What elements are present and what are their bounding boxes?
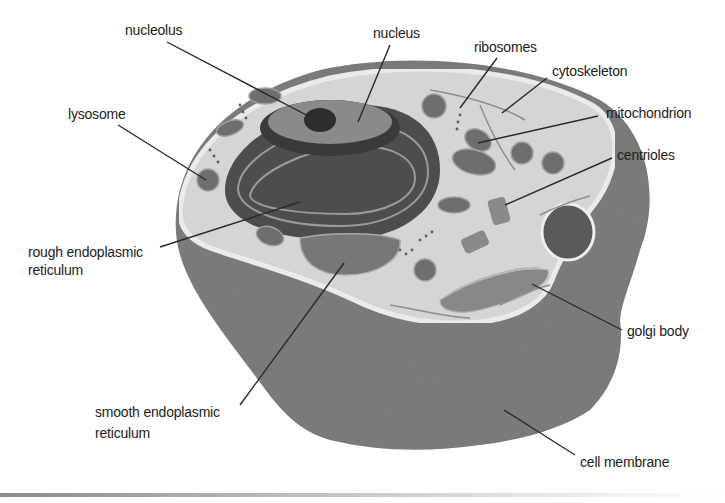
label-cytoskeleton: cytoskeleton [552, 63, 627, 80]
label-centrioles: centrioles [617, 147, 675, 164]
label-golgi-body: golgi body [627, 323, 689, 340]
label-nucleus: nucleus [373, 25, 420, 42]
label-smooth-er-line2: reticulum [95, 425, 150, 442]
label-rough-er-line1: rough endoplasmic [28, 244, 143, 261]
label-rough-er-line2: reticulum [28, 262, 83, 279]
label-smooth-er-line1: smooth endoplasmic [95, 404, 220, 421]
label-mitochondrion: mitochondrion [606, 105, 691, 122]
label-ribosomes: ribosomes [474, 39, 537, 56]
label-lysosome: lysosome [68, 106, 126, 123]
nucleolus-shape [304, 108, 336, 132]
vesicle [542, 204, 594, 260]
label-cell-membrane: cell membrane [580, 454, 669, 471]
bottom-divider [0, 493, 725, 497]
label-nucleolus: nucleolus [125, 22, 182, 39]
